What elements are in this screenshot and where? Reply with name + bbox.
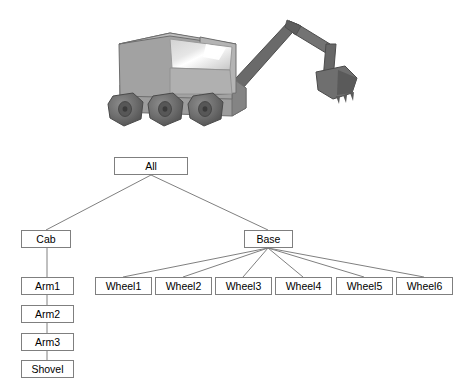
cab-body [119, 33, 236, 99]
tree-node-wheel3[interactable]: Wheel3 [215, 277, 272, 295]
tree-node-wheel2[interactable]: Wheel2 [155, 277, 212, 295]
edge-base-wheel6 [268, 248, 424, 277]
shovel-tooth [350, 92, 354, 101]
edge-base-wheel4 [268, 248, 303, 277]
excavator-model-figure [0, 0, 462, 152]
tree-node-wheel1[interactable]: Wheel1 [95, 277, 152, 295]
tree-node-cab[interactable]: Cab [21, 230, 71, 248]
wheel [148, 93, 183, 126]
shovel-tooth [343, 95, 347, 103]
tree-node-shovel[interactable]: Shovel [21, 360, 74, 378]
edge-base-wheel3 [243, 248, 268, 277]
tree-node-wheel4[interactable]: Wheel4 [275, 277, 332, 295]
cab-lower-band [170, 68, 232, 94]
tree-node-arm1[interactable]: Arm1 [21, 277, 74, 295]
excavator-illustration [0, 0, 462, 152]
tree-node-base[interactable]: Base [244, 230, 293, 248]
edge-all-base [151, 175, 268, 230]
scene-graph-tree: All Cab Base Arm1 Arm2 Arm3 Shovel Wheel… [0, 152, 462, 381]
shovel-tooth [336, 96, 340, 104]
wheel [108, 93, 143, 126]
edge-all-cab [46, 175, 151, 230]
wheel-assembly [108, 93, 223, 126]
tree-node-wheel5[interactable]: Wheel5 [336, 277, 393, 295]
wheel [188, 93, 223, 126]
tree-node-arm2[interactable]: Arm2 [21, 305, 74, 323]
edge-base-wheel2 [183, 248, 268, 277]
tree-node-all[interactable]: All [114, 157, 188, 175]
tree-node-arm3[interactable]: Arm3 [21, 333, 74, 351]
edge-base-wheel5 [268, 248, 364, 277]
edge-base-wheel1 [123, 248, 268, 277]
tree-node-wheel6[interactable]: Wheel6 [396, 277, 453, 295]
